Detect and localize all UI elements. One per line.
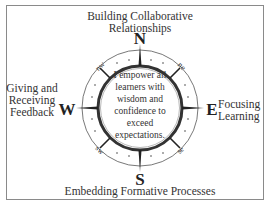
east-letter: E <box>206 100 217 119</box>
center-statement: I empower all learners with wisdom and c… <box>104 69 176 141</box>
west-letter: W <box>59 100 76 119</box>
sw-letter: sw <box>93 144 106 157</box>
se-letter: se <box>175 144 186 155</box>
south-letter: S <box>135 170 144 189</box>
north-letter: N <box>134 29 147 48</box>
